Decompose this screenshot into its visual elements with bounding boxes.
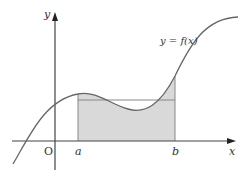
a-label: a: [75, 145, 82, 158]
b-label: b: [172, 145, 179, 158]
y-axis-label: y: [43, 8, 51, 21]
integral-diagram: y x x O a b y = f(x): [0, 0, 241, 179]
curve-label: y = f(x): [159, 35, 198, 46]
x-axis-arrow-icon: [227, 138, 236, 144]
x-axis-label-visible: x: [229, 145, 236, 158]
y-axis-arrow-icon: [52, 12, 58, 21]
origin-label: O: [44, 145, 53, 158]
curve-f: [13, 17, 238, 164]
diagram-canvas: y x x O a b y = f(x): [0, 0, 241, 179]
